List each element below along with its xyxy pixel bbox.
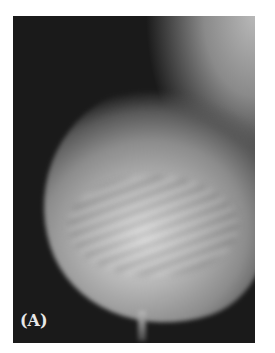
nipple-region	[138, 311, 146, 341]
panel-label: (A)	[20, 311, 48, 330]
mammogram-image: (A)	[13, 16, 255, 343]
fibroglandular-tissue	[68, 176, 238, 276]
